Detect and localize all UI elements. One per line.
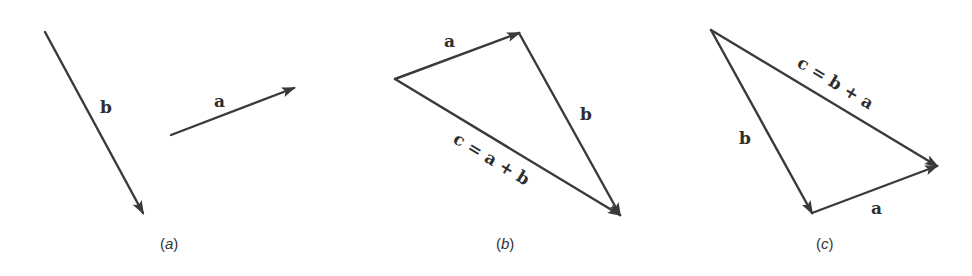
vector-c bbox=[395, 79, 620, 215]
vector-b-label: b bbox=[580, 104, 592, 124]
vector-a-label: a bbox=[871, 198, 882, 218]
vector-b-label: b bbox=[100, 97, 112, 117]
panel-c-caption: (c) bbox=[816, 235, 834, 252]
panel-b: a b c = a + b (b) bbox=[395, 31, 620, 252]
vector-a-label: a bbox=[214, 91, 225, 111]
vector-a bbox=[171, 88, 294, 135]
panel-c: b a c = b + a (c) bbox=[711, 30, 937, 252]
panel-b-caption: (b) bbox=[496, 235, 514, 252]
vector-addition-figure: b a (a) a b c = a + b (b) b a c = b + a … bbox=[0, 0, 972, 276]
vector-b bbox=[711, 30, 812, 213]
vector-b bbox=[45, 32, 143, 213]
vector-a bbox=[395, 33, 519, 79]
vector-b-label: b bbox=[739, 128, 751, 148]
vector-b bbox=[519, 33, 620, 215]
panel-a: b a (a) bbox=[45, 32, 294, 252]
panel-a-caption: (a) bbox=[160, 235, 178, 252]
vector-a-label: a bbox=[444, 31, 455, 51]
